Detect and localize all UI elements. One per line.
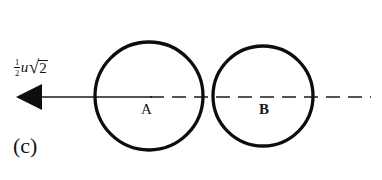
velocity-variable: u bbox=[21, 60, 29, 75]
velocity-label: 1 2 u √ 2 bbox=[14, 58, 48, 77]
body-circle-a bbox=[95, 42, 203, 150]
body-label-a: A bbox=[141, 102, 152, 117]
part-label: (c) bbox=[13, 135, 37, 157]
velocity-arrowhead-icon bbox=[16, 84, 42, 110]
fraction-one-half: 1 2 bbox=[14, 58, 20, 77]
radicand: 2 bbox=[38, 60, 48, 77]
collision-diagram-figure: 1 2 u √ 2 A B (c) bbox=[0, 0, 382, 180]
fraction-denominator: 2 bbox=[14, 68, 20, 77]
fraction-numerator: 1 bbox=[14, 58, 20, 67]
body-label-b: B bbox=[259, 102, 269, 117]
diagram-canvas bbox=[0, 0, 382, 180]
body-circle-b bbox=[213, 46, 313, 146]
square-root-expression: √ 2 bbox=[29, 59, 48, 76]
